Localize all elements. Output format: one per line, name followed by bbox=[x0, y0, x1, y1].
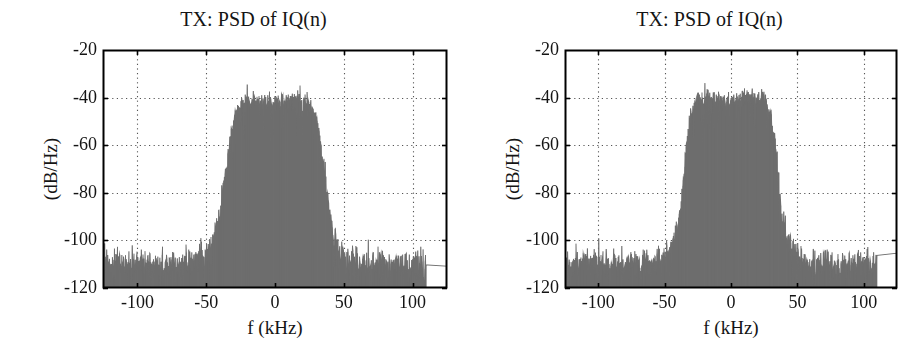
psd-figure: TX: PSD of IQ(n) (dB/Hz) f (kHz) -20-40-… bbox=[0, 0, 924, 360]
x-axis-label-left: f (kHz) bbox=[103, 318, 447, 338]
y-tick-right-2: -60 bbox=[462, 135, 559, 154]
panel-title-right: TX: PSD of IQ(n) bbox=[522, 8, 897, 30]
y-tick-right-3: -80 bbox=[462, 183, 559, 202]
y-tick-right-0: -20 bbox=[462, 40, 559, 59]
y-tick-left-0: -20 bbox=[0, 40, 97, 59]
psd-panel-left: TX: PSD of IQ(n) (dB/Hz) f (kHz) -20-40-… bbox=[0, 0, 462, 360]
panel-title-left: TX: PSD of IQ(n) bbox=[60, 8, 447, 30]
y-tick-left-1: -40 bbox=[0, 88, 97, 107]
x-axis-label-right: f (kHz) bbox=[565, 318, 897, 338]
psd-plot-right bbox=[555, 40, 907, 298]
y-axis-label-left: (dB/Hz) bbox=[41, 109, 61, 229]
y-tick-left-3: -80 bbox=[0, 183, 97, 202]
y-tick-left-5: -120 bbox=[0, 278, 97, 297]
x-tick-right-4: 100 bbox=[824, 293, 904, 312]
psd-panel-right: TX: PSD of IQ(n) (dB/Hz) f (kHz) -20-40-… bbox=[462, 0, 924, 360]
y-tick-right-1: -40 bbox=[462, 88, 559, 107]
psd-plot-left bbox=[93, 40, 457, 298]
y-tick-right-4: -100 bbox=[462, 230, 559, 249]
y-tick-left-4: -100 bbox=[0, 230, 97, 249]
y-axis-label-right: (dB/Hz) bbox=[503, 109, 523, 229]
y-tick-right-5: -120 bbox=[462, 278, 559, 297]
y-tick-left-2: -60 bbox=[0, 135, 97, 154]
x-tick-left-4: 100 bbox=[373, 293, 453, 312]
